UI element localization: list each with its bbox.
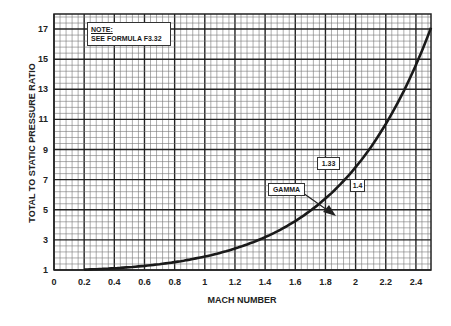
y-tick-label: 7 bbox=[43, 175, 48, 185]
x-tick-label: 0.4 bbox=[108, 277, 121, 287]
x-tick-label: 1.4 bbox=[259, 277, 272, 287]
y-axis-ticks: 1357911131517 bbox=[38, 24, 48, 275]
y-tick-label: 17 bbox=[38, 24, 48, 34]
note-title: NOTE: bbox=[91, 25, 170, 34]
pressure-ratio-curve bbox=[84, 28, 431, 270]
x-tick-label: 1.2 bbox=[229, 277, 242, 287]
chart-canvas: 00.20.40.60.811.21.41.61.822.22.4 135791… bbox=[0, 0, 451, 326]
note-box: NOTE: SEE FORMULA F3.32 bbox=[87, 22, 171, 46]
y-tick-label: 15 bbox=[38, 54, 48, 64]
x-tick-label: 2.4 bbox=[410, 277, 423, 287]
x-axis-label: MACH NUMBER bbox=[208, 295, 277, 305]
x-tick-label: 1.6 bbox=[289, 277, 302, 287]
note-text: SEE FORMULA F3.32 bbox=[91, 35, 162, 42]
y-tick-label: 13 bbox=[38, 84, 48, 94]
x-tick-label: 0 bbox=[51, 277, 56, 287]
x-tick-label: 2 bbox=[353, 277, 358, 287]
x-tick-label: 0.6 bbox=[138, 277, 151, 287]
y-tick-label: 11 bbox=[38, 114, 48, 124]
y-tick-label: 1 bbox=[43, 265, 48, 275]
x-tick-label: 0.2 bbox=[78, 277, 91, 287]
y-tick-label: 5 bbox=[43, 205, 48, 215]
x-axis-ticks: 00.20.40.60.811.21.41.61.822.22.4 bbox=[51, 277, 422, 287]
gamma-1-4-label: 1.4 bbox=[350, 179, 365, 192]
gamma-1-33-label: 1.33 bbox=[317, 157, 340, 170]
x-tick-label: 0.8 bbox=[168, 277, 181, 287]
x-tick-label: 2.2 bbox=[380, 277, 393, 287]
gamma-label: GAMMA bbox=[268, 183, 305, 196]
y-tick-label: 3 bbox=[43, 235, 48, 245]
x-tick-label: 1 bbox=[202, 277, 207, 287]
y-axis-label: TOTAL TO STATIC PRESSURE RATIO bbox=[27, 63, 37, 222]
y-tick-label: 9 bbox=[43, 145, 48, 155]
x-tick-label: 1.8 bbox=[319, 277, 332, 287]
